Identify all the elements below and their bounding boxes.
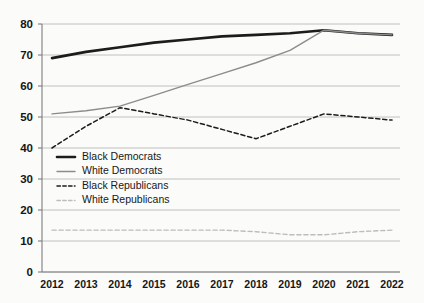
y-tick-label: 30	[20, 173, 33, 185]
line-chart: 01020304050607080 2012201320142015201620…	[0, 0, 424, 303]
y-tick-label: 20	[20, 204, 33, 216]
x-tick-label: 2012	[40, 278, 64, 290]
y-axis-tick-labels: 01020304050607080	[20, 18, 42, 278]
y-tick-label: 70	[20, 49, 33, 61]
x-tick-label: 2017	[210, 278, 234, 290]
series-line-white-republicans	[52, 230, 392, 235]
y-tick-label: 40	[20, 142, 33, 154]
chart-legend: Black DemocratsWhite DemocratsBlack Repu…	[57, 150, 170, 206]
x-tick-label: 2013	[74, 278, 98, 290]
x-tick-label: 2014	[108, 278, 132, 290]
x-tick-label: 2019	[278, 278, 302, 290]
legend-label-black-democrats: Black Democrats	[82, 150, 161, 162]
series-line-white-democrats	[52, 30, 392, 114]
legend-label-black-republicans: Black Republicans	[82, 179, 168, 191]
legend-label-white-republicans: White Republicans	[82, 193, 170, 205]
legend-label-white-democrats: White Democrats	[82, 164, 163, 176]
x-tick-label: 2020	[312, 278, 336, 290]
y-tick-label: 80	[20, 18, 33, 30]
chart-canvas: 01020304050607080 2012201320142015201620…	[0, 0, 424, 303]
x-tick-label: 2015	[142, 278, 166, 290]
gridlines-group	[42, 24, 400, 272]
x-tick-label: 2022	[380, 278, 404, 290]
y-tick-label: 50	[20, 111, 33, 123]
x-tick-label: 2018	[244, 278, 268, 290]
series-line-black-republicans	[52, 108, 392, 148]
y-tick-label: 10	[20, 235, 33, 247]
y-tick-label: 0	[27, 266, 33, 278]
y-tick-label: 60	[20, 80, 33, 92]
series-line-black-democrats	[52, 30, 392, 58]
x-axis-tick-labels: 2012201320142015201620172018201920202021…	[40, 278, 404, 290]
x-tick-label: 2021	[346, 278, 370, 290]
x-tick-label: 2016	[176, 278, 200, 290]
